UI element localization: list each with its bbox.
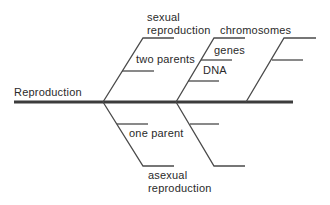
- sub-label-dna: DNA: [203, 64, 227, 77]
- branch-top-1: [103, 38, 174, 102]
- spine-label: Reproduction: [14, 86, 82, 99]
- branch-label-reproduction-bottom: reproduction: [148, 182, 212, 195]
- branch-top-3: [246, 38, 316, 102]
- sub-label-two-parents: two parents: [136, 53, 195, 66]
- branch-bottom-2: [176, 102, 245, 166]
- sub-label-one-parent: one parent: [129, 127, 184, 140]
- sub-label-genes: genes: [214, 44, 245, 57]
- branch-label-reproduction-top: reproduction: [147, 24, 211, 37]
- branch-label-sexual: sexual: [147, 11, 180, 24]
- branch-label-chromosomes: chromosomes: [220, 24, 291, 37]
- branch-label-asexual: asexual: [148, 169, 187, 182]
